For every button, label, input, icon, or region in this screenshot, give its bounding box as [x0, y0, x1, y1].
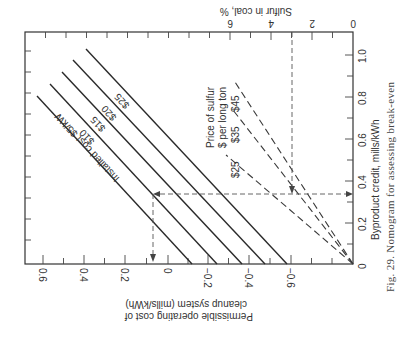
svg-text:2: 2	[309, 18, 315, 29]
label-price-title-2: $ per long ton	[217, 87, 228, 148]
label-sulfur-35: $35	[230, 126, 241, 143]
example-guide-path	[150, 32, 353, 262]
label-sulfur-45: $45	[230, 95, 241, 112]
left-axis-ticks	[25, 51, 31, 240]
nomogram-chart: Installed cost $5/kW $10 $15 $20 $25 Pri…	[0, 0, 403, 348]
figure-caption: Fig. 29. Nomogram for assessing break-ev…	[384, 82, 396, 292]
svg-text:0.4: 0.4	[357, 175, 368, 189]
line-10-per-kw	[50, 84, 217, 264]
sulfur-axis-labels: 0 2 4 6 Sulfur in coal, %	[220, 6, 356, 29]
svg-text:0.2: 0.2	[357, 217, 368, 231]
svg-text:6: 6	[227, 18, 233, 29]
svg-text:0: 0	[350, 18, 356, 29]
sulfur-price-lines	[226, 82, 353, 264]
line-sulfur-25	[226, 155, 353, 264]
svg-text:−0.4: −0.4	[243, 268, 254, 288]
svg-text:0.8: 0.8	[357, 91, 368, 105]
sulfur-axis-ticks	[46, 32, 333, 40]
svg-text:0.2: 0.2	[119, 268, 130, 282]
sulfur-axis-title: Sulfur in coal, %	[220, 6, 292, 17]
byproduct-axis-labels: 0 0.2 0.4 0.6 0.8 1.0 Byproduct credit, …	[357, 49, 381, 269]
svg-text:0: 0	[162, 268, 173, 274]
byproduct-axis-title: Byproduct credit, mills/kWh	[370, 119, 381, 240]
svg-text:1.0: 1.0	[357, 49, 368, 63]
line-sulfur-45	[235, 82, 353, 264]
svg-text:0: 0	[357, 263, 368, 269]
svg-text:−0.2: −0.2	[202, 268, 213, 288]
cost-axis-labels: 0.6 0.4 0.2 0 −0.2 −0.4 −0.6	[37, 268, 296, 288]
cost-axis-title: Permissible operating cost of cleanup sy…	[124, 299, 253, 322]
svg-text:0.6: 0.6	[357, 133, 368, 147]
sulfur-price-labels: Price of sulfur $ per long ton $25 $35 $…	[205, 86, 241, 178]
label-price-title-1: Price of sulfur	[205, 86, 216, 148]
installed-cost-labels: Installed cost $5/kW $10 $15 $20 $25	[52, 91, 131, 184]
installed-cost-lines	[37, 49, 287, 264]
byproduct-axis-ticks	[345, 55, 353, 244]
svg-text:−0.6: −0.6	[285, 268, 296, 288]
svg-text:0.4: 0.4	[78, 268, 89, 282]
plot-frame	[25, 32, 353, 264]
label-sulfur-25: $25	[230, 161, 241, 178]
svg-text:0.6: 0.6	[37, 268, 48, 282]
svg-text:4: 4	[268, 18, 274, 29]
svg-text:Permissible operating cost of: Permissible operating cost of	[124, 311, 253, 322]
svg-text:cleanup system (mills/kWh): cleanup system (mills/kWh)	[125, 299, 247, 310]
